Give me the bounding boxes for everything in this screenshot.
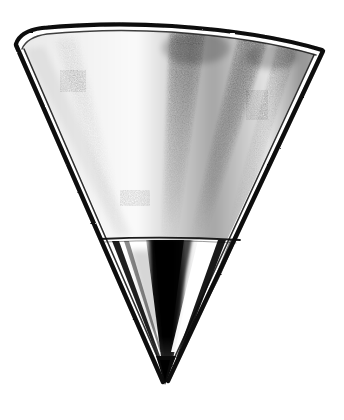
conical-funnel-illustration [0,0,344,420]
illustration-canvas: Black and white engraved illustration of… [0,0,344,420]
